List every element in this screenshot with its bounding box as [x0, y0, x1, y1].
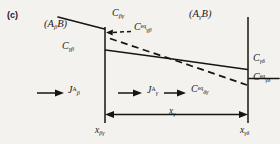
x-gamma-delta-sub: γδ	[244, 130, 249, 136]
gamma-phase-label: (AγB)	[189, 9, 211, 20]
flux-beta-sub: β	[77, 89, 80, 96]
c-beta-gamma-sub: βγ	[119, 12, 125, 19]
label-x-gamma-delta: xγδ	[240, 126, 249, 137]
dimension-line-x-gamma	[105, 111, 248, 118]
x-gamma-sub: γ	[173, 111, 175, 117]
label-c-gamma-beta: Cγβ	[62, 41, 74, 52]
c-gamma-delta-eq-base: C	[253, 71, 260, 82]
curve-gamma-equilibrium-dashed	[110, 39, 247, 86]
label-c-delta-gamma-eq: Ceqδγ	[191, 84, 208, 95]
gamma-phase-tail: B)	[201, 8, 211, 19]
beta-phase-base: (A	[44, 18, 54, 29]
beta-phase-label: (AβB)	[44, 19, 67, 30]
c-gamma-beta-eq-base: C	[134, 21, 141, 32]
c-delta-gamma-eq-sub: δγ	[203, 88, 208, 95]
flux-arrow-gamma-left	[118, 90, 142, 97]
flux-arrow-gamma-right	[164, 90, 186, 97]
c-gamma-beta-eq-sub: γβ	[146, 26, 152, 33]
beta-phase-tail: B)	[57, 18, 67, 29]
c-gamma-beta-base: C	[62, 40, 69, 51]
x-beta-gamma-sub: βγ	[99, 130, 104, 136]
label-flux-beta: JAβ	[68, 85, 80, 96]
c-beta-gamma-base: C	[112, 7, 119, 18]
c-gamma-delta-sub: γδ	[260, 57, 265, 64]
gamma-phase-base: (A	[189, 8, 199, 19]
label-c-gamma-delta-eq: Ceqγδ	[253, 72, 270, 83]
leader-dash-gamma-beta-eq	[111, 32, 132, 33]
c-gamma-delta-base: C	[253, 52, 260, 63]
flux-arrow-beta	[37, 90, 64, 97]
label-flux-gamma: JAγ	[147, 85, 158, 96]
c-gamma-delta-eq-sub: γδ	[265, 76, 270, 83]
flux-gamma-sub: γ	[156, 89, 158, 96]
c-delta-gamma-eq-base: C	[191, 83, 198, 94]
label-x-gamma: xγ	[169, 107, 176, 118]
curve-gamma-phase-solid	[106, 50, 248, 70]
label-x-beta-gamma: xβγ	[95, 126, 104, 137]
label-c-beta-gamma: Cβγ	[112, 8, 124, 19]
label-c-gamma-beta-eq: Ceqγβ	[134, 22, 152, 33]
label-c-gamma-delta: Cγδ	[253, 53, 265, 64]
panel-tag: (c)	[7, 11, 18, 20]
c-gamma-beta-sub: γβ	[69, 45, 75, 52]
leader-arrowhead-gamma-beta-eq	[106, 30, 113, 36]
